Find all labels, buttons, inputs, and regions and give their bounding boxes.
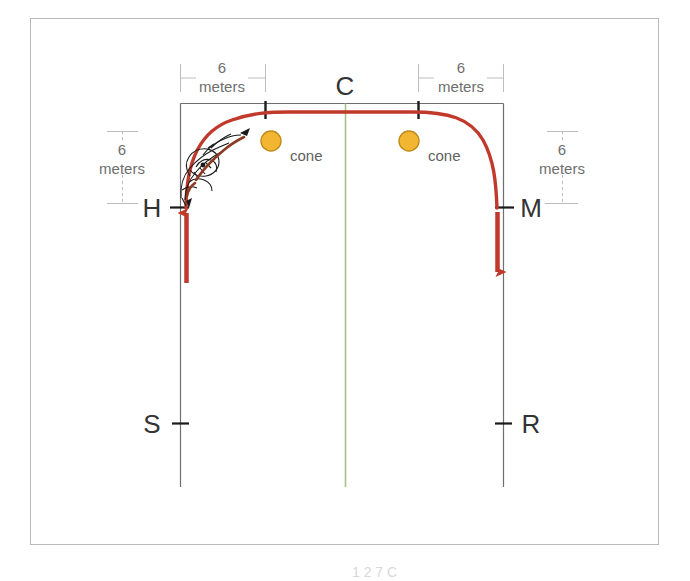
letter-R: R <box>522 409 541 439</box>
dim-right-value: 6 <box>558 141 566 158</box>
dim-top-right-unit: meters <box>438 78 484 95</box>
letter-M: M <box>520 193 542 223</box>
arena-diagram: cone cone C H M S R 6 meters 6 meters 6 … <box>0 0 690 581</box>
letter-C: C <box>336 71 355 101</box>
letter-H: H <box>143 193 162 223</box>
cone-right-label: cone <box>428 147 461 164</box>
letter-S: S <box>143 409 160 439</box>
figure-root: cone cone C H M S R 6 meters 6 meters 6 … <box>0 0 690 581</box>
cone-left-icon <box>261 131 281 151</box>
dim-right-unit: meters <box>539 160 585 177</box>
cone-right-icon <box>399 131 419 151</box>
dim-top-left-unit: meters <box>199 78 245 95</box>
dim-top-right-value: 6 <box>457 59 465 76</box>
dim-top-left-value: 6 <box>218 59 226 76</box>
dim-left-value: 6 <box>118 141 126 158</box>
dim-left-unit: meters <box>99 160 145 177</box>
cone-left-label: cone <box>290 147 323 164</box>
